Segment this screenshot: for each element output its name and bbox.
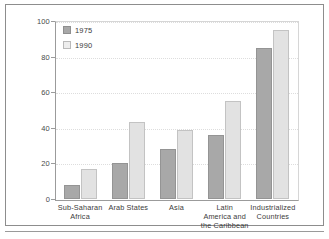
y-tick-mark-0 (51, 199, 55, 200)
bar (273, 30, 289, 199)
x-axis-label-line: the Caribbean (191, 221, 259, 230)
bar (225, 101, 241, 199)
bar-chart: 020406080100 Sub-SaharanAfricaArab State… (0, 0, 329, 239)
y-tick-label-100: 100 (37, 17, 50, 26)
legend: 1975 1990 (63, 24, 117, 54)
y-tick-mark-40 (51, 128, 55, 129)
legend-label-1990: 1990 (75, 41, 93, 50)
legend-label-1975: 1975 (75, 26, 93, 35)
x-axis-label-line: Countries (239, 212, 307, 221)
x-axis-label-line: Industrialized (239, 203, 307, 212)
y-tick-mark-100 (51, 21, 55, 22)
legend-swatch-1975-icon (63, 26, 71, 34)
bar (208, 135, 224, 199)
y-tick-mark-20 (51, 163, 55, 164)
legend-swatch-1990-icon (63, 41, 71, 49)
y-tick-label-80: 80 (41, 52, 50, 61)
y-axis: 020406080100 (28, 21, 50, 199)
y-tick-mark-80 (51, 57, 55, 58)
x-axis-label: IndustrializedCountries (239, 203, 307, 221)
x-axis-labels: Sub-SaharanAfricaArab StatesAsiaLatinAme… (56, 203, 297, 237)
legend-item-1975: 1975 (63, 24, 117, 36)
bar-group (201, 21, 249, 199)
x-axis-label-line: Africa (46, 212, 114, 221)
y-tick-label-60: 60 (41, 88, 50, 97)
bar-group (249, 21, 297, 199)
bar (64, 185, 80, 199)
bar (129, 122, 145, 199)
bar (160, 149, 176, 199)
y-tick-label-20: 20 (41, 159, 50, 168)
y-tick-label-40: 40 (41, 123, 50, 132)
bar (112, 163, 128, 199)
bar-group (152, 21, 200, 199)
chart-figure: 020406080100 Sub-SaharanAfricaArab State… (0, 0, 329, 239)
bar (256, 48, 272, 199)
y-tick-mark-60 (51, 92, 55, 93)
legend-item-1990: 1990 (63, 39, 117, 51)
bar (177, 130, 193, 199)
bar (81, 169, 97, 199)
